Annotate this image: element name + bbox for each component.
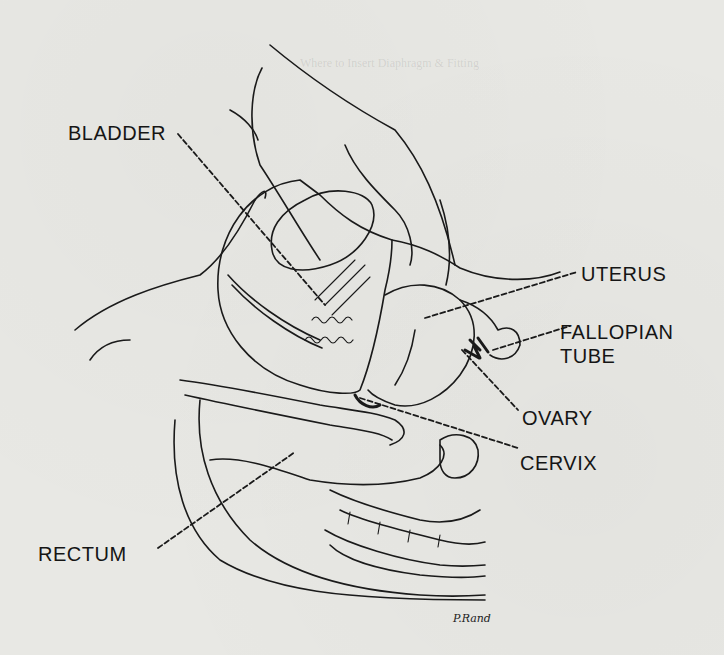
label-fallopian-tube-line1: FALLOPIAN bbox=[560, 321, 673, 343]
label-uterus: UTERUS bbox=[581, 263, 666, 285]
label-fallopian-tube-line2: TUBE bbox=[560, 345, 615, 367]
label-ovary: OVARY bbox=[522, 407, 593, 429]
label-bladder: BLADDER bbox=[68, 122, 166, 144]
label-rectum: RECTUM bbox=[38, 543, 127, 565]
artist-signature: P.Rand bbox=[453, 612, 491, 625]
label-cervix: CERVIX bbox=[520, 452, 597, 474]
